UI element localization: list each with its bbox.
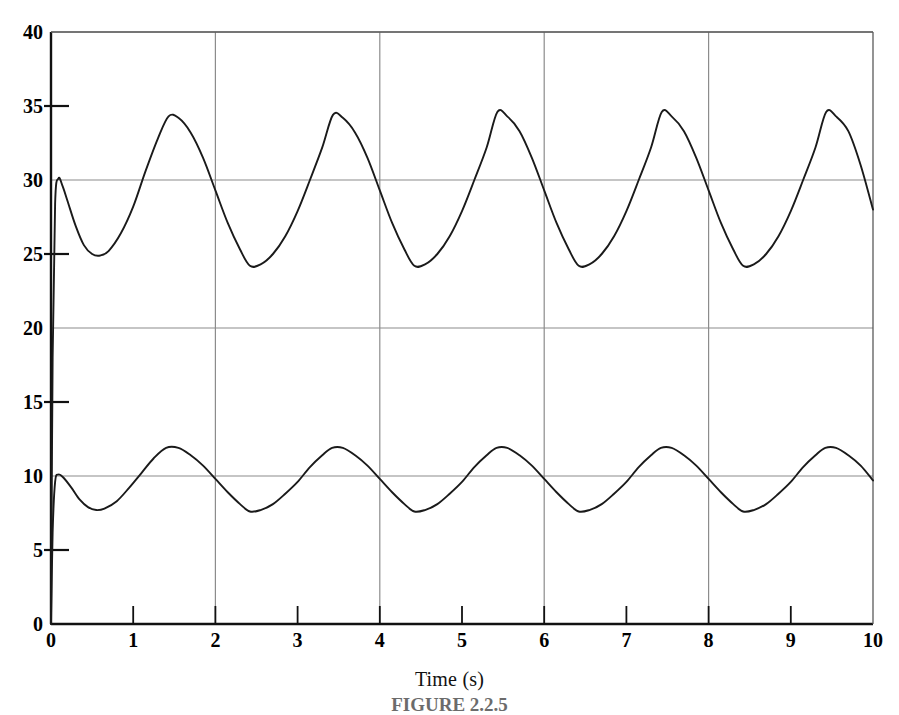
x-tick-label: 0	[31, 630, 71, 650]
y-tick-label: 30	[3, 170, 43, 190]
tick-marks	[44, 106, 791, 624]
x-tick-label: 3	[278, 630, 318, 650]
x-axis-title: Time (s)	[0, 668, 899, 691]
series-line-lower-response	[51, 447, 873, 624]
gridlines	[51, 32, 873, 624]
x-tick-label: 7	[606, 630, 646, 650]
series-line-upper-response	[51, 110, 873, 624]
x-tick-label: 6	[524, 630, 564, 650]
y-tick-label: 20	[3, 318, 43, 338]
y-tick-label: 10	[3, 466, 43, 486]
y-tick-label: 40	[3, 22, 43, 42]
y-tick-label: 15	[3, 392, 43, 412]
x-tick-label: 9	[771, 630, 811, 650]
y-tick-label: 5	[3, 540, 43, 560]
x-tick-label: 2	[195, 630, 235, 650]
y-tick-label: 25	[3, 244, 43, 264]
x-tick-label: 5	[442, 630, 482, 650]
x-tick-label: 8	[689, 630, 729, 650]
y-tick-label: 35	[3, 96, 43, 116]
data-series-group	[51, 110, 873, 624]
figure-caption: FIGURE 2.2.5	[0, 694, 899, 715]
x-tick-label: 1	[113, 630, 153, 650]
x-tick-label: 4	[360, 630, 400, 650]
x-tick-label: 10	[853, 630, 893, 650]
